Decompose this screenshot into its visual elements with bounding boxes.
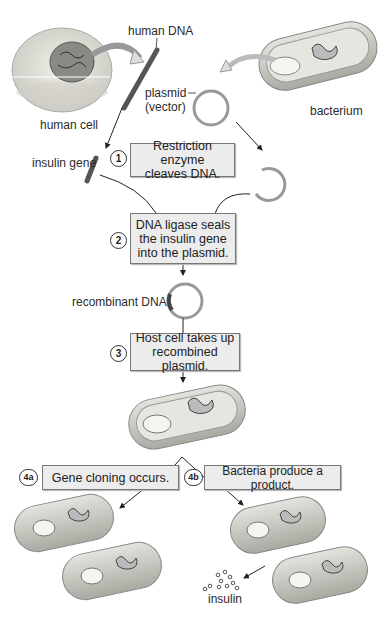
step-1-box: Restriction enzyme cleaves DNA. <box>130 143 235 177</box>
bacterium-label: bacterium <box>310 104 363 118</box>
step-3-box: Host cell takes up recombined plasmid. <box>130 333 240 371</box>
bacterium-illustration <box>253 16 382 95</box>
step-1-line-1: Restriction enzyme <box>131 139 234 167</box>
insulin-label: insulin <box>208 592 242 606</box>
step-4a-line-1: Gene cloning occurs. <box>43 471 178 485</box>
step-4a-box: Gene cloning occurs. <box>42 465 179 490</box>
step-number-4a: 4a <box>19 469 38 486</box>
step-3-line-1: Host cell takes up <box>131 331 239 345</box>
cloned-bacteria-illustration <box>10 490 165 604</box>
human-cell-illustration <box>0 28 112 112</box>
step-number-2: 2 <box>110 232 127 249</box>
step-2-line-3: into the plasmid. <box>131 246 235 260</box>
recombinant-dna-label: recombinant DNA <box>72 295 167 309</box>
step-2-box: DNA ligase seals the insulin gene into t… <box>130 213 236 264</box>
step-4b-box: Bacteria produce a product. <box>204 465 341 490</box>
human-dna-label: human DNA <box>128 24 193 38</box>
insulin-molecules <box>203 570 239 591</box>
vector-label: (vector) <box>145 100 186 114</box>
host-bacterium-illustration <box>124 380 250 453</box>
step-1-line-2: cleaves DNA. <box>131 167 234 181</box>
step-number-3: 3 <box>110 345 127 362</box>
step-4b-line-1: Bacteria produce a product. <box>205 464 340 492</box>
plasmid-label: plasmid <box>145 86 186 100</box>
diagram-artwork <box>0 0 385 624</box>
step-2-line-2: the insulin gene <box>131 232 235 246</box>
human-cell-label: human cell <box>40 118 98 132</box>
step-number-1: 1 <box>110 150 127 167</box>
producing-bacteria-illustration <box>226 493 371 608</box>
insulin-gene-label: insulin gene <box>32 156 96 170</box>
step-3-line-2: recombined plasmid. <box>131 345 239 373</box>
step-number-4b: 4b <box>184 469 203 486</box>
step-2-line-1: DNA ligase seals <box>131 218 235 232</box>
